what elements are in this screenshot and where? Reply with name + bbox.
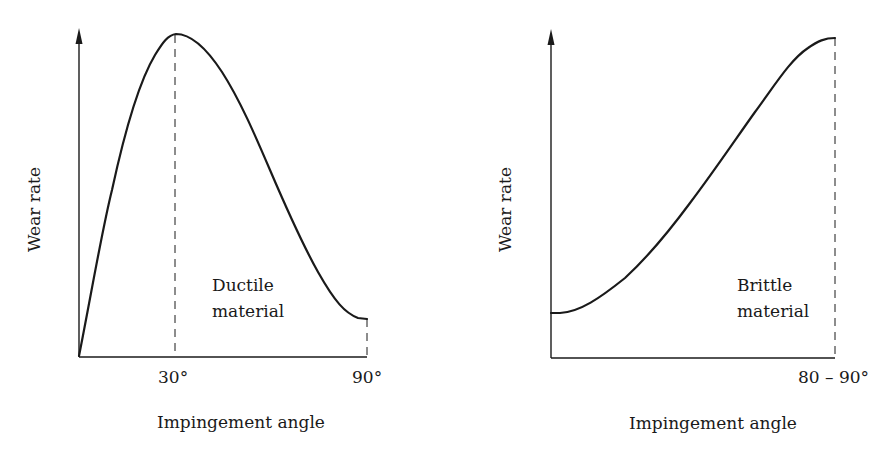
ductile-annotation-line1: Ductile	[212, 272, 274, 299]
brittle-annotation-line1: Brittle	[737, 272, 792, 299]
ductile-chart-panel: Wear rate 30° 90° Impingement angle Duct…	[0, 0, 450, 454]
x-tick-80-90: 80 – 90°	[798, 367, 869, 388]
brittle-annotation-line2: material	[737, 298, 809, 325]
ductile-annotation-line2: material	[212, 298, 284, 325]
x-tick-30: 30°	[158, 367, 188, 388]
ductile-chart-svg	[0, 0, 450, 454]
y-axis-label: Wear rate	[24, 167, 44, 252]
y-axis-label: Wear rate	[495, 167, 515, 252]
brittle-wear-curve	[551, 38, 835, 313]
figure-caption-clipped	[0, 444, 892, 454]
x-tick-90: 90°	[352, 367, 382, 388]
x-axis-label: Impingement angle	[629, 413, 797, 434]
y-axis-arrow-icon	[548, 29, 555, 45]
y-axis-arrow-icon	[76, 28, 83, 44]
brittle-chart-panel: Wear rate 80 – 90° Impingement angle Bri…	[450, 0, 892, 454]
x-axis-label: Impingement angle	[157, 412, 325, 433]
